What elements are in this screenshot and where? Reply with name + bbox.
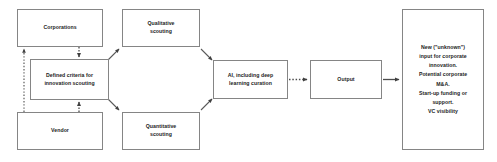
connector-defined-criteria-to-qualitative — [108, 49, 119, 60]
node-quantitative-scouting[interactable]: Quantitative scouting — [122, 112, 200, 150]
node-vendor-label: Vendor — [48, 127, 72, 135]
node-output-label: Output — [334, 76, 357, 84]
node-vendor[interactable]: Vendor — [17, 112, 103, 150]
node-ai-curation-label: AI, including deep learning curation — [225, 72, 277, 88]
node-ai-curation[interactable]: AI, including deep learning curation — [213, 60, 288, 99]
node-qualitative-scouting-label: Qualitative scouting — [144, 20, 177, 36]
node-outcomes-label: New ("unknown") input for corporate inno… — [416, 43, 470, 116]
node-quantitative-scouting-label: Quantitative scouting — [143, 123, 180, 139]
flowchart-diagram: Corporations Vendor Defined criteria for… — [0, 0, 497, 162]
connector-defined-criteria-to-quantitative — [108, 99, 119, 110]
connector-quantitative-to-ai — [201, 99, 212, 110]
node-defined-criteria[interactable]: Defined criteria for innovation scouting — [30, 59, 109, 100]
node-qualitative-scouting[interactable]: Qualitative scouting — [122, 9, 200, 47]
node-output[interactable]: Output — [310, 60, 382, 99]
node-defined-criteria-label: Defined criteria for innovation scouting — [41, 72, 97, 88]
node-corporations[interactable]: Corporations — [17, 9, 103, 47]
connector-qualitative-to-ai — [201, 49, 212, 60]
node-outcomes[interactable]: New ("unknown") input for corporate inno… — [402, 9, 484, 150]
node-corporations-label: Corporations — [40, 24, 79, 32]
